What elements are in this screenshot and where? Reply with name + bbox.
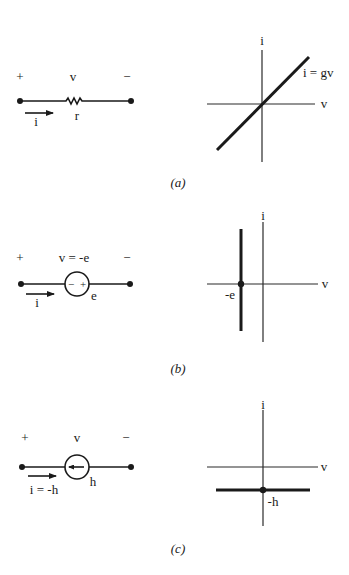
caption-b: (b) xyxy=(170,361,185,376)
y-axis-label: i xyxy=(260,33,264,48)
element-label: e xyxy=(91,288,97,303)
plus-terminal-label: + xyxy=(21,430,28,445)
caption-c: (c) xyxy=(171,541,185,556)
circuit-b: + v = -e − − + i e xyxy=(16,250,133,310)
current-label: i = -h xyxy=(30,482,59,497)
element-label: h xyxy=(90,474,97,489)
x-axis-label: v xyxy=(321,96,328,111)
plus-terminal-label: + xyxy=(16,69,23,84)
intercept-dot-icon xyxy=(238,281,244,287)
resistor-icon xyxy=(20,98,131,104)
panel-b: + v = -e − − + i e i v -e (b) xyxy=(16,208,328,376)
caption-a: (a) xyxy=(170,175,185,190)
y-axis-label: i xyxy=(261,397,265,412)
voltage-label: v xyxy=(70,69,77,84)
intercept-label: -e xyxy=(225,287,235,302)
intercept-label: -h xyxy=(268,494,279,509)
source-plus-sign: + xyxy=(80,278,86,290)
graph-a: i v i = gv xyxy=(207,33,334,162)
circuit-a: + v − i r xyxy=(16,69,134,129)
x-axis-label: v xyxy=(322,276,329,291)
figure-canvas: + v − i r i v i = gv (a) + v = -e − xyxy=(0,0,349,575)
y-axis-label: i xyxy=(261,208,265,223)
circuit-c: + v − i = -h h xyxy=(19,430,134,497)
minus-terminal-label: − xyxy=(123,250,130,265)
graph-c: i v -h xyxy=(207,397,328,526)
plus-terminal-label: + xyxy=(16,250,23,265)
panel-a: + v − i r i v i = gv (a) xyxy=(16,33,334,190)
element-label: r xyxy=(75,108,80,123)
panel-c: + v − i = -h h i v -h (c) xyxy=(19,397,328,556)
voltage-label: v = -e xyxy=(59,250,90,265)
voltage-label: v xyxy=(74,430,81,445)
current-label: i xyxy=(34,114,38,129)
minus-terminal-label: − xyxy=(123,69,130,84)
minus-terminal-label: − xyxy=(122,430,129,445)
x-axis-label: v xyxy=(321,459,328,474)
intercept-dot-icon xyxy=(260,487,266,493)
graph-b: i v -e xyxy=(207,208,329,342)
current-label: i xyxy=(35,295,39,310)
curve-label: i = gv xyxy=(303,65,334,80)
source-minus-sign: − xyxy=(68,278,74,290)
